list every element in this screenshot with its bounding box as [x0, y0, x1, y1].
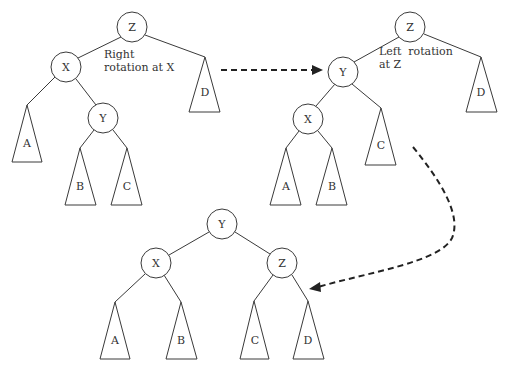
subtree-c: C — [111, 148, 142, 205]
node-y: Y — [328, 57, 358, 87]
arrowhead-icon — [309, 282, 321, 292]
node-z: Z — [267, 248, 297, 278]
node-y: Y — [207, 209, 237, 239]
caption-right-rotation-line2: rotation at X — [104, 61, 174, 74]
svg-text:A: A — [110, 334, 120, 347]
tree-rotation-diagram: A B C D Z X Y — [0, 0, 505, 376]
subtree-b: B — [316, 148, 347, 205]
node-y: Y — [88, 103, 118, 133]
svg-text:X: X — [152, 257, 160, 270]
subtree-d: D — [189, 57, 220, 112]
node-x: X — [51, 52, 81, 82]
svg-text:B: B — [76, 180, 84, 193]
svg-text:D: D — [304, 334, 313, 347]
node-x: X — [293, 104, 323, 134]
caption-left-rotation-line2: at Z — [379, 58, 401, 71]
svg-text:Y: Y — [217, 218, 226, 231]
svg-text:D: D — [477, 86, 486, 99]
tree-balanced: A B C D Y X Z — [100, 209, 324, 359]
svg-text:Y: Y — [338, 66, 347, 79]
subtree-a: A — [270, 148, 301, 205]
svg-text:B: B — [328, 180, 336, 193]
subtree-c: C — [365, 108, 396, 165]
subtree-c: C — [240, 301, 269, 359]
subtree-d: D — [293, 301, 324, 359]
tree-after-right-rotation: A B C D Z Y X — [270, 12, 497, 205]
node-x: X — [141, 248, 171, 278]
svg-text:D: D — [201, 86, 210, 99]
node-z: Z — [395, 12, 425, 42]
node-z: Z — [117, 12, 147, 42]
svg-text:C: C — [123, 180, 131, 193]
svg-text:Z: Z — [278, 257, 286, 270]
subtree-b: B — [65, 148, 96, 205]
svg-text:Z: Z — [128, 21, 136, 34]
svg-text:Z: Z — [406, 21, 414, 34]
tree-initial: A B C D Z X Y — [12, 12, 220, 205]
svg-text:C: C — [251, 334, 259, 347]
svg-text:X: X — [62, 61, 70, 74]
subtree-a: A — [12, 105, 42, 162]
arrow-step1-to-step2 — [221, 65, 323, 75]
svg-text:C: C — [377, 139, 385, 152]
subtree-b: B — [166, 302, 197, 359]
subtree-a: A — [100, 302, 130, 359]
svg-text:A: A — [281, 180, 291, 193]
svg-text:Y: Y — [98, 112, 107, 125]
caption-left-rotation-line1: Left rotation — [379, 45, 453, 58]
svg-text:B: B — [177, 334, 185, 347]
svg-text:X: X — [304, 113, 312, 126]
subtree-d: D — [466, 57, 497, 112]
caption-right-rotation-line1: Right — [104, 48, 135, 61]
svg-text:A: A — [22, 137, 32, 150]
arrowhead-icon — [312, 65, 323, 75]
